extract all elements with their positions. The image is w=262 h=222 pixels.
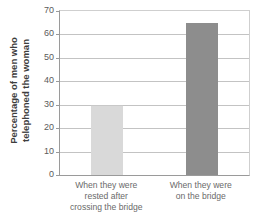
y-axis-tick	[56, 11, 60, 12]
gridline	[60, 128, 249, 129]
gridline	[60, 152, 249, 153]
x-axis-category-label-line: crossing the bridge	[59, 202, 154, 213]
x-axis-category-label-line: rested after	[59, 191, 154, 202]
gridline	[60, 34, 249, 35]
bar-chart: Percentage of men who telephoned the wom…	[0, 0, 262, 222]
y-axis-tick	[56, 81, 60, 82]
y-axis-tick-label: 60	[36, 29, 54, 38]
bar	[186, 23, 218, 175]
y-axis-tick-labels: 010203040506070	[38, 0, 56, 182]
plot-area	[59, 10, 250, 176]
y-axis-tick	[56, 175, 60, 176]
y-axis-tick	[56, 128, 60, 129]
gridline	[60, 58, 249, 59]
y-axis-tick	[56, 58, 60, 59]
y-axis-title-line-1: Percentage of men who	[8, 37, 20, 144]
y-axis-tick	[56, 34, 60, 35]
gridline	[60, 81, 249, 82]
x-axis-category-label-line: When they were	[59, 180, 154, 191]
y-axis-tick	[56, 152, 60, 153]
y-axis-tick-label: 10	[36, 146, 54, 155]
x-axis-category-label-line: on the bridge	[154, 191, 249, 202]
y-axis-tick-label: 20	[36, 123, 54, 132]
y-axis-tick-label: 50	[36, 52, 54, 61]
bar	[91, 105, 123, 175]
x-axis-category-label: When they wererested aftercrossing the b…	[59, 180, 154, 213]
y-axis-title-line-2: telephoned the woman	[19, 37, 31, 144]
x-axis-category-labels: When they wererested aftercrossing the b…	[59, 180, 250, 222]
y-axis-tick	[56, 105, 60, 106]
y-axis-tick-label: 30	[36, 99, 54, 108]
y-axis-tick-label: 0	[36, 170, 54, 179]
y-axis-tick-label: 40	[36, 76, 54, 85]
x-axis-category-label: When they wereon the bridge	[154, 180, 249, 202]
gridline	[60, 105, 249, 106]
y-axis-tick-label: 70	[36, 6, 54, 15]
y-axis-title: Percentage of men who telephoned the wom…	[0, 0, 38, 180]
x-axis-category-label-line: When they were	[154, 180, 249, 191]
